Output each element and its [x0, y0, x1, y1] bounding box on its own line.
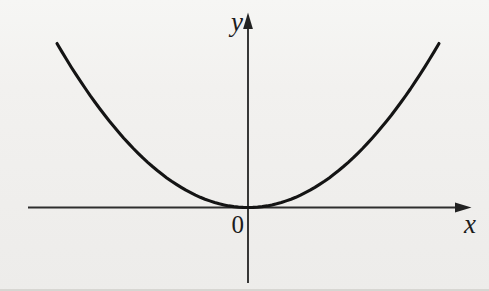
origin-label: 0	[232, 211, 245, 238]
y-axis-arrowhead-icon	[243, 13, 253, 30]
y-axis-label: y	[228, 7, 243, 37]
plot-svg: y x 0	[0, 0, 489, 291]
parabola-figure: y x 0	[0, 0, 489, 291]
x-axis-label: x	[463, 209, 476, 239]
